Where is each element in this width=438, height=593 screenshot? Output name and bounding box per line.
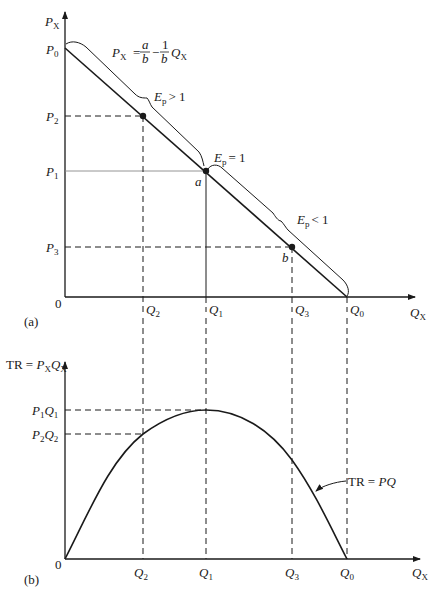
- svg-text:b: b: [161, 51, 168, 66]
- elasticity-label-unit: Ep= 1: [213, 150, 246, 167]
- svg-text:=: =: [133, 45, 140, 60]
- tick-q3-b: Q3: [285, 565, 299, 582]
- panel-b-x-axis-label: QX: [412, 565, 428, 582]
- demand-and-total-revenue-diagram: PX QX 0 (a) P0 P2 P1 P3 Q2 Q1 Q3 Q0 PX =…: [0, 0, 438, 593]
- panel-b-origin: 0: [55, 557, 62, 572]
- svg-text:−: −: [152, 45, 159, 60]
- panel-a: PX QX 0 (a) P0 P2 P1 P3 Q2 Q1 Q3 Q0 PX =…: [24, 12, 426, 329]
- tick-q2-b: Q2: [134, 565, 148, 582]
- tick-p2q2: P2Q2: [31, 427, 58, 444]
- inelastic-range-brace: [208, 165, 348, 296]
- panel-b-y-axis-label: TR = PXQX: [6, 357, 67, 374]
- tick-q1-b: Q1: [199, 565, 213, 582]
- point-a-label: a: [195, 174, 202, 189]
- point-b: [289, 244, 295, 250]
- panel-a-y-axis-label: PX: [44, 14, 60, 31]
- point-b-label: b: [282, 250, 289, 265]
- panel-a-x-axis-label: QX: [410, 305, 426, 322]
- svg-text:a: a: [142, 37, 149, 52]
- point-a: [203, 168, 209, 174]
- elasticity-label-inelastic: Ep< 1: [296, 212, 329, 229]
- demand-equation: PX = a b − 1 b QX: [111, 37, 187, 66]
- svg-text:PX: PX: [111, 45, 127, 62]
- tr-label-pointer: [316, 481, 346, 491]
- svg-text:QX: QX: [171, 45, 187, 62]
- point-p2-q2: [140, 113, 146, 119]
- tick-q2-a: Q2: [146, 302, 160, 319]
- panel-a-tag: (a): [24, 314, 38, 329]
- svg-text:b: b: [142, 51, 149, 66]
- tr-curve-label: TR = PQ: [348, 474, 396, 489]
- tick-q0-a: Q0: [350, 302, 364, 319]
- elasticity-label-elastic: Ep> 1: [153, 89, 186, 106]
- panel-b-tag: (b): [24, 572, 39, 587]
- tick-p2: P2: [45, 109, 58, 126]
- tick-p0: P0: [45, 42, 59, 59]
- tick-p1q1: P1Q1: [31, 403, 58, 420]
- tick-q1-a: Q1: [209, 302, 223, 319]
- tick-p1: P1: [45, 164, 58, 181]
- tick-q0-b: Q0: [340, 565, 354, 582]
- svg-text:1: 1: [162, 37, 169, 52]
- panel-a-origin: 0: [55, 296, 62, 311]
- tick-p3: P3: [45, 240, 59, 257]
- tick-q3-a: Q3: [295, 302, 309, 319]
- panel-b: TR = PQ TR = PXQX P1Q1 P2Q2 0 (b) Q2 Q1 …: [6, 318, 428, 587]
